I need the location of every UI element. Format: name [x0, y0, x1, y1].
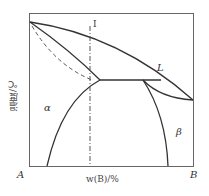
phase-diagram	[0, 0, 209, 196]
liquid-phase-label: L	[157, 63, 164, 73]
beta-phase-label: β	[176, 127, 182, 137]
plot-frame	[30, 14, 194, 167]
beta-solidus-curve	[143, 80, 193, 100]
alpha-phase-label: α	[44, 103, 51, 113]
corner-label-a: A	[17, 170, 24, 180]
beta-solvus-curve	[143, 80, 168, 166]
x-axis-label: w(B)/%	[86, 174, 119, 184]
alloy-label: I	[93, 20, 97, 29]
alpha-solvus-curve	[47, 80, 100, 166]
y-axis-label: 温度/℃	[6, 78, 19, 111]
liquidus-curve	[30, 22, 193, 100]
corner-label-b: B	[190, 170, 197, 180]
